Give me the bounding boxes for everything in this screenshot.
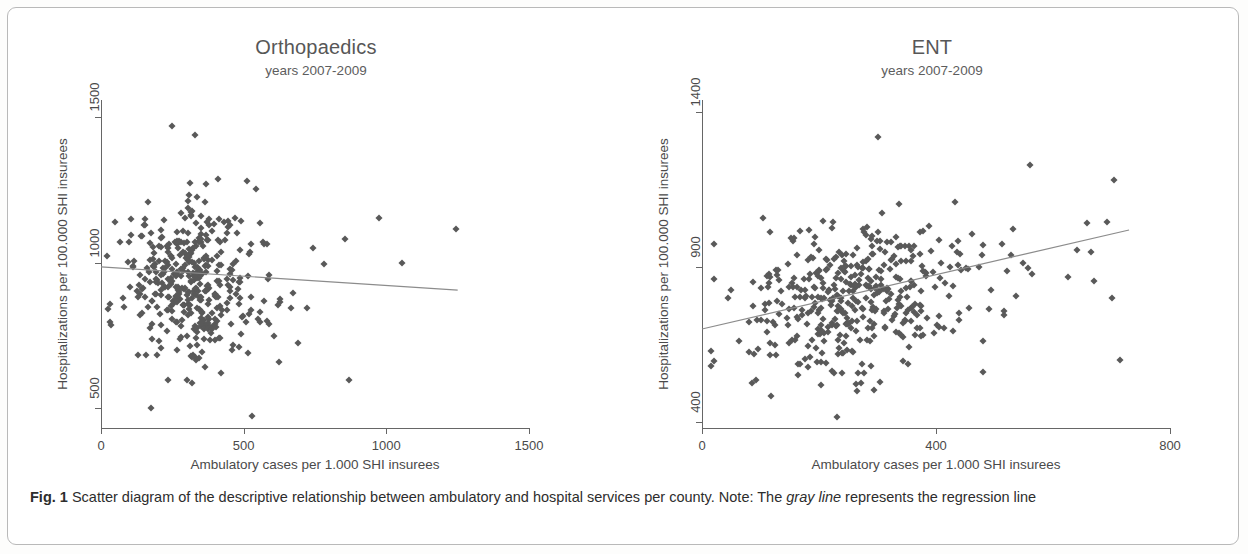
scatter-point — [868, 362, 875, 369]
scatter-point — [951, 198, 958, 205]
scatter-point — [309, 244, 316, 251]
scatter-point — [233, 229, 240, 236]
scatter-point — [929, 269, 936, 276]
figure-root: Orthopaedics years 2007-2009 50010001500… — [0, 0, 1248, 554]
scatter-point — [158, 291, 165, 298]
scatter-point — [156, 337, 163, 344]
scatter-point — [187, 179, 194, 186]
scatter-point — [119, 294, 126, 301]
scatter-point — [829, 225, 836, 232]
scatter-point — [804, 343, 811, 350]
scatter-point — [1004, 267, 1011, 274]
scatter-point — [772, 341, 779, 348]
scatter-point — [1013, 292, 1020, 299]
scatter-point — [854, 387, 861, 394]
scatter-point — [954, 238, 961, 245]
scatter-point — [763, 328, 770, 335]
scatter-point — [917, 251, 924, 258]
scatter-point — [803, 321, 810, 328]
scatter-point — [144, 199, 151, 206]
scatter-point — [158, 322, 165, 329]
scatter-point — [236, 301, 243, 308]
scatter-point — [855, 369, 862, 376]
scatter-point — [141, 294, 148, 301]
scatter-point — [1108, 294, 1115, 301]
scatter-point — [111, 219, 118, 226]
scatter-point — [930, 329, 937, 336]
scatter-point — [986, 305, 993, 312]
scatter-point — [853, 328, 860, 335]
scatter-point — [341, 236, 348, 243]
scatter-point — [237, 331, 244, 338]
scatter-point — [321, 260, 328, 267]
scatter-point — [163, 327, 170, 334]
scatter-point — [887, 265, 894, 272]
caption-emphasis: gray line — [786, 489, 841, 505]
scatter-point — [287, 304, 294, 311]
scatter-point — [749, 303, 756, 310]
scatter-point — [874, 134, 881, 141]
scatter-point — [1111, 177, 1118, 184]
scatter-point — [784, 322, 791, 329]
scatter-point — [236, 246, 243, 253]
scatter-point — [248, 413, 255, 420]
scatter-point — [784, 260, 791, 267]
scatter-point — [775, 266, 782, 273]
scatter-point — [778, 288, 785, 295]
scatter-point — [804, 363, 811, 370]
scatter-point — [248, 240, 255, 247]
scatter-point — [242, 319, 249, 326]
scatter-point — [840, 339, 847, 346]
scatter-point — [245, 349, 252, 356]
scatter-point — [946, 293, 953, 300]
scatter-point — [776, 310, 783, 317]
scatter-point — [766, 229, 773, 236]
scatter-point — [398, 259, 405, 266]
scatter-point — [710, 241, 717, 248]
scatter-point — [926, 222, 933, 229]
scatter-point — [217, 281, 224, 288]
scatter-point — [214, 268, 221, 275]
scatter-point — [346, 377, 353, 384]
scatter-point — [811, 240, 818, 247]
scatter-point — [710, 276, 717, 283]
scatter-point — [820, 217, 827, 224]
scatter-point — [707, 347, 714, 354]
scatter-point — [912, 331, 919, 338]
scatter-point — [253, 185, 260, 192]
scatter-point — [802, 286, 809, 293]
caption-text-part1: Scatter diagram of the descriptive relat… — [68, 489, 786, 505]
scatter-point — [856, 337, 863, 344]
scatter-point — [941, 280, 948, 287]
scatter-point — [245, 272, 252, 279]
scatter-point — [192, 334, 199, 341]
panel-subtitle-ent: years 2007-2009 — [624, 63, 1240, 78]
scatter-point — [1087, 248, 1094, 255]
scatter-point — [217, 369, 224, 376]
scatter-point — [116, 238, 123, 245]
scatter-point — [794, 332, 801, 339]
scatter-point — [772, 351, 779, 358]
x-tick — [1170, 428, 1171, 434]
scatter-point — [1074, 247, 1081, 254]
scatter-point — [270, 333, 277, 340]
scatter-point — [876, 378, 883, 385]
scatter-point — [169, 123, 176, 130]
scatter-point — [192, 131, 199, 138]
scatter-point — [776, 276, 783, 283]
scatter-point — [1090, 277, 1097, 284]
scatter-point — [879, 209, 886, 216]
x-tick — [702, 428, 703, 434]
scatter-point — [896, 201, 903, 208]
scatter-point — [1103, 219, 1110, 226]
panel-title-ent: ENT — [624, 36, 1240, 59]
scatter-point — [276, 358, 283, 365]
scatter-point — [127, 283, 134, 290]
scatter-point — [294, 339, 301, 346]
panel-title-orthopaedics: Orthopaedics — [8, 36, 624, 59]
y-axis-title: Hospitalizations per 100.000 SHI insuree… — [656, 138, 671, 389]
scatter-point — [143, 352, 150, 359]
scatter-point — [724, 295, 731, 302]
scatter-point — [153, 351, 160, 358]
scatter-point — [185, 191, 192, 198]
